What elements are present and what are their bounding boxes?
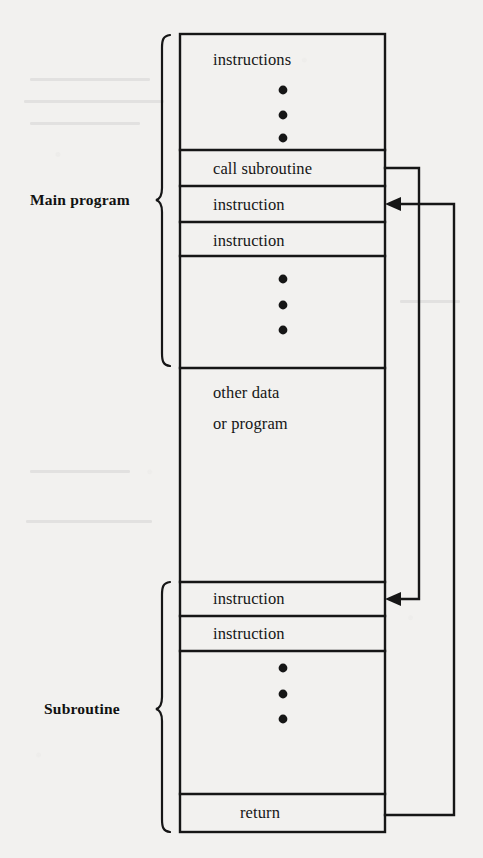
- dot: [279, 690, 288, 699]
- row-label-sub-instruction-1: instruction: [213, 589, 285, 609]
- dot: [279, 301, 288, 310]
- dot: [279, 134, 288, 143]
- dot: [279, 86, 288, 95]
- row-label-return: return: [240, 803, 280, 823]
- row-label-or-program: or program: [213, 414, 288, 434]
- row-label-instruction-2: instruction: [213, 231, 285, 251]
- return-arrowhead: [385, 197, 401, 211]
- row-label-instructions: instructions: [213, 50, 291, 70]
- dot: [279, 715, 288, 724]
- dot: [279, 111, 288, 120]
- call-arrowhead: [385, 592, 401, 606]
- group-label-subroutine: Subroutine: [44, 700, 120, 718]
- row-label-other-data: other data: [213, 383, 280, 403]
- dot: [279, 275, 288, 284]
- dot: [279, 326, 288, 335]
- main-program-brace: [156, 35, 170, 366]
- subroutine-brace: [156, 582, 170, 832]
- row-label-sub-instruction-2: instruction: [213, 624, 285, 644]
- diagram-page: instructions call subroutine instruction…: [0, 0, 483, 858]
- group-label-main-program: Main program: [30, 191, 130, 209]
- row-label-call-subroutine: call subroutine: [213, 159, 312, 179]
- dot: [279, 664, 288, 673]
- call-jump-connector: [385, 168, 419, 599]
- row-label-instruction-1: instruction: [213, 195, 285, 215]
